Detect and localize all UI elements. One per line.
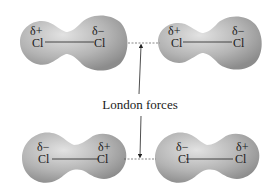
arrow-up-icon [139,46,141,94]
london-forces-diagram: δ+ Cl δ− Cl δ+ Cl δ− Cl δ− Cl δ+ Cl δ− C… [0,0,277,196]
molecule-bottom-right: δ− Cl δ+ Cl [155,132,259,182]
london-forces-label: London forces [102,97,177,112]
molecule-top-left: δ+ Cl δ− Cl [20,15,128,70]
atom-label: Cl [97,152,109,166]
atom-label: Cl [32,36,44,50]
atom-label: Cl [178,152,190,166]
atom-label: Cl [38,152,50,166]
molecule-top-right: δ+ Cl δ− Cl [158,17,262,70]
molecule-bottom-left: δ− Cl δ+ Cl [22,132,126,182]
atom-label: Cl [94,36,106,50]
atom-label: Cl [233,36,245,50]
arrow-down-icon [140,116,141,156]
atom-label: Cl [171,36,183,50]
atom-label: Cl [235,152,247,166]
